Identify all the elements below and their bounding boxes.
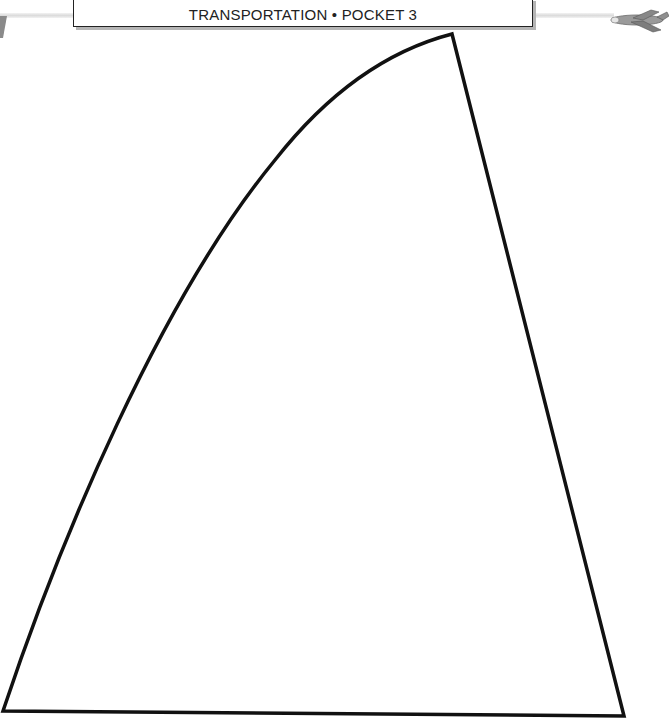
sail-outline-shape <box>0 0 667 726</box>
